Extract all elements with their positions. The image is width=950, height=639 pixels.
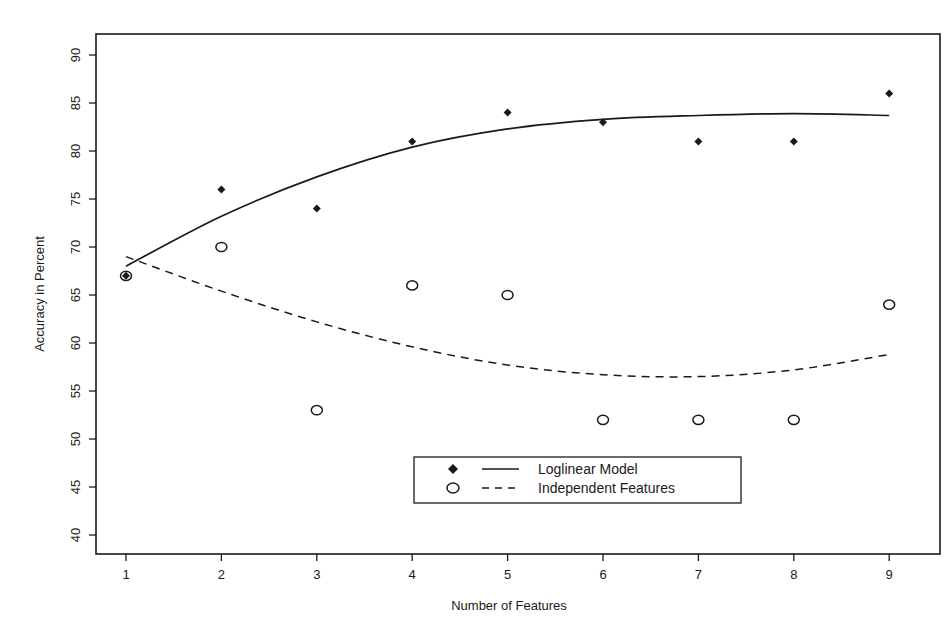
open-circle-marker xyxy=(216,242,227,251)
open-circle-marker xyxy=(407,281,418,290)
chart: 4045505560657075808590 123456789 Accurac… xyxy=(0,0,950,639)
loglinear-model-points xyxy=(122,89,893,279)
y-tick-label: 80 xyxy=(68,144,83,158)
filled-diamond-marker xyxy=(313,205,321,213)
y-axis: 4045505560657075808590 xyxy=(68,48,96,542)
y-tick-label: 40 xyxy=(68,528,83,542)
open-circle-icon xyxy=(447,483,459,493)
x-axis-title: Number of Features xyxy=(451,598,567,613)
legend-label-loglinear: Loglinear Model xyxy=(538,461,638,477)
filled-diamond-marker xyxy=(408,137,416,145)
x-tick-label: 8 xyxy=(790,567,797,582)
filled-diamond-marker xyxy=(504,109,512,117)
open-circle-marker xyxy=(598,415,609,424)
y-tick-label: 45 xyxy=(68,480,83,494)
independent-features-points xyxy=(121,242,895,424)
filled-diamond-marker xyxy=(694,137,702,145)
independent-fit-line xyxy=(126,257,889,377)
x-tick-label: 1 xyxy=(122,567,129,582)
y-tick-label: 55 xyxy=(68,384,83,398)
y-tick-label: 90 xyxy=(68,48,83,62)
y-tick-label: 85 xyxy=(68,96,83,110)
y-tick-label: 50 xyxy=(68,432,83,446)
x-tick-label: 4 xyxy=(409,567,416,582)
loglinear-fit-line xyxy=(126,114,889,267)
filled-diamond-marker xyxy=(885,89,893,97)
x-axis: 123456789 xyxy=(122,554,892,582)
y-axis-title: Accuracy in Percent xyxy=(32,236,47,352)
y-tick-label: 70 xyxy=(68,240,83,254)
filled-diamond-marker xyxy=(790,137,798,145)
y-tick-label: 60 xyxy=(68,336,83,350)
legend: Loglinear Model Independent Features xyxy=(414,457,741,503)
open-circle-marker xyxy=(502,290,513,299)
filled-diamond-marker xyxy=(217,185,225,193)
legend-label-independent: Independent Features xyxy=(538,480,675,496)
open-circle-marker xyxy=(693,415,704,424)
y-tick-label: 65 xyxy=(68,288,83,302)
open-circle-marker xyxy=(884,300,895,309)
x-tick-label: 3 xyxy=(313,567,320,582)
open-circle-marker xyxy=(311,406,322,415)
y-tick-label: 75 xyxy=(68,192,83,206)
x-tick-label: 9 xyxy=(886,567,893,582)
x-tick-label: 6 xyxy=(599,567,606,582)
x-tick-label: 7 xyxy=(695,567,702,582)
x-tick-label: 5 xyxy=(504,567,511,582)
x-tick-label: 2 xyxy=(218,567,225,582)
open-circle-marker xyxy=(788,415,799,424)
